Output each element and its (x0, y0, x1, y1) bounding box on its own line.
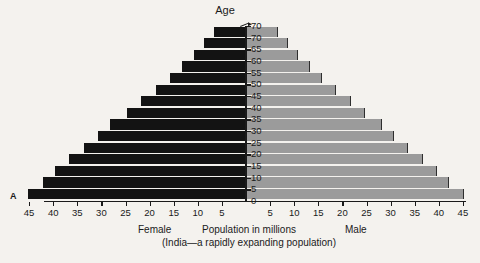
male-bar (247, 119, 382, 129)
male-bar (247, 166, 437, 176)
female-axis-line (44, 201, 246, 202)
right-x-tick-label: 25 (361, 207, 372, 218)
age-tick-label: 40 (251, 103, 262, 113)
age-band-row (0, 84, 480, 96)
female-bar (204, 38, 245, 48)
age-band-row (0, 49, 480, 61)
female-bar (182, 61, 245, 71)
age-band-row (0, 177, 480, 189)
age-band-row (0, 165, 480, 177)
age-tick-label: 55 (251, 68, 262, 78)
right-x-tick (367, 202, 368, 206)
left-x-tick-label: 30 (96, 207, 107, 218)
left-x-tick (150, 202, 151, 206)
right-x-tick (391, 202, 392, 206)
female-bar (141, 96, 245, 106)
right-x-tick-label: 35 (409, 207, 420, 218)
left-x-tick (126, 202, 127, 206)
age-band-row (0, 188, 480, 200)
age-tick-label: 70 (251, 21, 262, 31)
left-x-tick (101, 202, 102, 206)
left-x-tick (29, 202, 30, 206)
age-band-row (0, 72, 480, 84)
right-x-tick (318, 202, 319, 206)
female-bar (84, 143, 245, 153)
age-band-row (0, 119, 480, 131)
left-x-tick-label: 10 (193, 207, 204, 218)
male-bar (247, 131, 394, 141)
age-band-row (0, 96, 480, 108)
female-bar (69, 154, 245, 164)
age-tick-label: 25 (251, 138, 262, 148)
age-band-row (0, 61, 480, 73)
age-band-row (0, 38, 480, 50)
age-band-row (0, 130, 480, 142)
right-x-tick-label: 30 (385, 207, 396, 218)
right-x-tick (463, 202, 464, 206)
left-x-tick (198, 202, 199, 206)
chart-subcaption: (India—a rapidly expanding population) (0, 237, 480, 248)
female-bar (110, 119, 245, 129)
age-tick-label: 20 (251, 150, 262, 160)
female-bar (127, 108, 245, 118)
female-bar (28, 189, 245, 199)
age-tick-label: 30 (251, 126, 262, 136)
age-axis-line (245, 26, 247, 201)
age-axis-title: Age (0, 4, 480, 16)
chart-caption: Population in millions (0, 224, 480, 235)
female-bar (98, 131, 245, 141)
left-x-tick (174, 202, 175, 206)
left-x-tick (77, 202, 78, 206)
left-x-tick-label: 15 (168, 207, 179, 218)
left-x-tick-label: 25 (120, 207, 131, 218)
right-x-tick (439, 202, 440, 206)
age-tick-label: 50 (251, 80, 262, 90)
left-x-tick-label: 40 (48, 207, 59, 218)
male-bar (247, 189, 464, 199)
left-x-tick-label: 5 (219, 207, 224, 218)
female-bar (156, 85, 245, 95)
right-x-tick (415, 202, 416, 206)
female-bar (214, 27, 245, 37)
male-bar (247, 96, 351, 106)
right-x-tick-label: 45 (458, 207, 469, 218)
right-x-tick (342, 202, 343, 206)
right-x-tick-label: 15 (313, 207, 324, 218)
age-tick-label: 10 (251, 173, 262, 183)
female-bar (43, 177, 245, 187)
age-tick-label: 5 (251, 185, 256, 195)
age-band-row (0, 154, 480, 166)
population-pyramid-figure: A Age Female Male Population in millions… (0, 0, 480, 263)
age-tick-label: 45 (251, 91, 262, 101)
age-band-row (0, 142, 480, 154)
age-tick-label: 0 (251, 196, 256, 206)
age-tick-label: 35 (251, 115, 262, 125)
age-band-row (0, 26, 480, 38)
right-x-tick (294, 202, 295, 206)
left-x-tick-label: 45 (24, 207, 35, 218)
left-x-tick-label: 20 (144, 207, 155, 218)
female-bar (55, 166, 245, 176)
right-x-tick-label: 40 (434, 207, 445, 218)
male-bar (247, 143, 408, 153)
left-x-tick-label: 35 (72, 207, 83, 218)
right-x-tick-label: 5 (267, 207, 272, 218)
male-axis-line (246, 201, 466, 202)
male-bar (247, 108, 365, 118)
age-tick-label: 70 (251, 33, 262, 43)
right-x-tick (270, 202, 271, 206)
female-bar (170, 73, 245, 83)
plot-area (0, 26, 480, 200)
age-band-row (0, 107, 480, 119)
age-tick-label: 60 (251, 56, 262, 66)
left-x-tick (53, 202, 54, 206)
male-bar (247, 177, 449, 187)
right-x-tick-label: 10 (289, 207, 300, 218)
left-x-tick (222, 202, 223, 206)
female-bar (194, 50, 245, 60)
right-x-tick-label: 20 (337, 207, 348, 218)
male-bar (247, 154, 423, 164)
age-tick-label: 15 (251, 161, 262, 171)
age-tick-label: 65 (251, 45, 262, 55)
